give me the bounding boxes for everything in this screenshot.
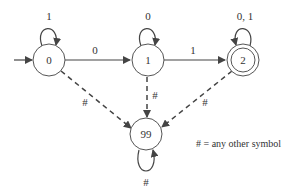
state-2-accept: 2: [227, 44, 259, 76]
loop-0: [40, 29, 56, 46]
edge-1-2-label: 1: [190, 44, 196, 56]
state-2-label: 2: [240, 54, 246, 66]
edge-0-99: [61, 71, 131, 128]
edge-2-99-label: #: [202, 96, 208, 108]
loop-0-label: 1: [46, 10, 52, 22]
loop-1-label: 0: [145, 10, 151, 22]
loop-2-label: 0, 1: [237, 10, 254, 22]
edge-0-1-label: 0: [92, 44, 98, 56]
state-0-label: 0: [46, 54, 52, 66]
legend-text: # = any other symbol: [196, 138, 281, 149]
loop-99-label: #: [143, 176, 149, 188]
loop-99: [138, 150, 154, 171]
state-99: 99: [130, 118, 162, 150]
state-diagram: 1 0 0, 1 # 0 1 # # # 0 1 2 99 # = any ot…: [0, 0, 287, 190]
edge-1-99-label: #: [152, 89, 158, 101]
loop-2: [235, 29, 251, 46]
state-1: 1: [132, 44, 164, 76]
loop-1: [139, 29, 155, 46]
state-1-label: 1: [145, 54, 151, 66]
state-99-label: 99: [141, 128, 153, 140]
edge-0-99-label: #: [82, 96, 88, 108]
edge-2-99: [162, 71, 232, 127]
state-0: 0: [33, 44, 65, 76]
